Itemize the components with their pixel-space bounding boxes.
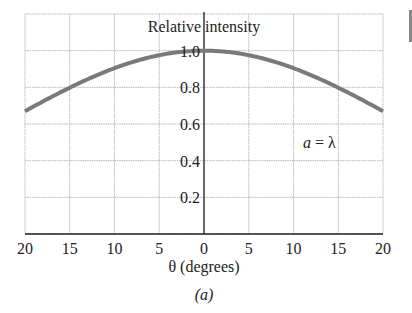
x-tick-label: 5 <box>245 240 253 257</box>
intensity-chart: 0.20.40.60.81.0 201510505101520 Relative… <box>0 0 412 313</box>
chart-title: Relative intensity <box>148 18 260 36</box>
x-tick-label: 5 <box>155 240 163 257</box>
x-axis-label: θ (degrees) <box>168 258 239 276</box>
y-tick-label: 0.8 <box>180 79 200 96</box>
y-tick-labels: 0.20.40.60.81.0 <box>180 43 200 207</box>
annotation-a: a <box>303 134 311 151</box>
y-tick-label: 0.2 <box>180 189 200 206</box>
y-tick-label: 0.6 <box>180 116 200 133</box>
x-tick-labels: 201510505101520 <box>17 240 391 257</box>
axes <box>25 12 383 234</box>
x-tick-label: 0 <box>200 240 208 257</box>
x-tick-label: 10 <box>286 240 302 257</box>
x-tick-label: 15 <box>330 240 346 257</box>
y-tick-label: 1.0 <box>180 43 200 60</box>
x-tick-label: 15 <box>62 240 78 257</box>
x-tick-label: 10 <box>107 240 123 257</box>
annotation-eq: = λ <box>311 134 336 151</box>
x-tick-label: 20 <box>375 240 391 257</box>
y-tick-label: 0.4 <box>180 153 200 170</box>
figure-caption: (a) <box>195 286 214 304</box>
annotation: a = λ <box>303 134 336 151</box>
x-tick-label: 20 <box>17 240 33 257</box>
